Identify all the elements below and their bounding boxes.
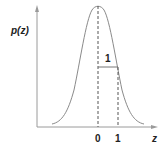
x-axis-label: z (151, 133, 157, 144)
x-axis-arrow-icon (151, 125, 158, 129)
segment-label: 1 (105, 53, 111, 64)
tick-label-0: 0 (95, 133, 101, 144)
normal-distribution-diagram: p(z) 1 0 1 z (0, 0, 168, 148)
y-axis-arrow-icon (35, 5, 39, 12)
tick-label-1: 1 (115, 133, 121, 144)
y-axis-label: p(z) (10, 25, 29, 36)
